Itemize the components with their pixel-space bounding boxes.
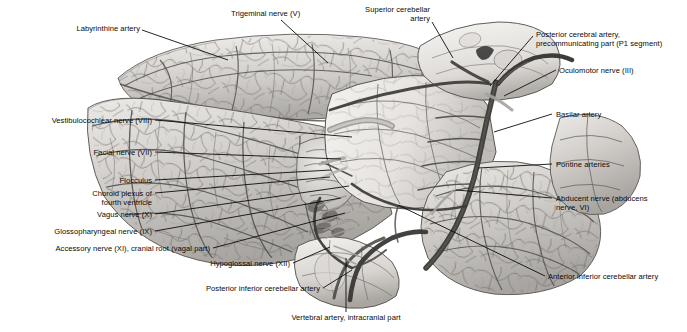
label-posterior-cerebral-artery: Posterior cerebral artery, precommunicat…	[536, 30, 684, 49]
label-flocculus: Flocculus	[86, 176, 152, 185]
label-vertebral-artery: Vertebral artery, intracranial part	[262, 313, 430, 322]
label-trigeminal-nerve: Trigeminal nerve (V)	[231, 9, 335, 18]
label-hypoglossal-nerve: Hypoglossal nerve (XII)	[172, 259, 290, 268]
label-posterior-inferior-cerebellar-artery: Posterior inferior cerebellar artery	[152, 284, 320, 293]
label-oculomotor-nerve: Oculomotor nerve (III)	[559, 66, 679, 75]
label-facial-nerve: Facial nerve (VII)	[56, 148, 152, 157]
label-pontine-arteries: Pontine arteries	[556, 160, 646, 169]
anatomical-plate: Labyrinthine arteryTrigeminal nerve (V)S…	[0, 0, 687, 332]
label-basilar-artery: Basilar artery	[556, 110, 636, 119]
label-anterior-inferior-cerebellar-artery: Anterior inferior cerebellar artery	[548, 272, 687, 281]
label-choroid-plexus: Choroid plexus of fourth ventricle	[82, 189, 152, 208]
label-abducent-nerve: Abducent nerve (abducens nerve, VI)	[556, 194, 680, 213]
label-glossopharyngeal-nerve: Glossopharyngeal nerve (IX)	[20, 227, 152, 236]
label-vestibulocochlear-nerve: Vestibulocochlear nerve (VIII)	[12, 116, 152, 125]
label-labyrinthine-artery: Labyrinthine artery	[36, 24, 140, 33]
label-accessory-nerve: Accessory nerve (XI), cranial root (vaga…	[0, 244, 210, 253]
label-superior-cerebellar-artery: Superior cerebellar artery	[326, 5, 430, 24]
label-vagus-nerve: Vagus nerve (X)	[66, 210, 152, 219]
